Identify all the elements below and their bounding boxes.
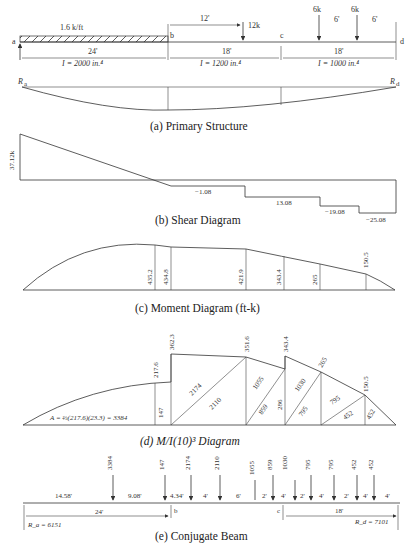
svg-text:6': 6' — [372, 15, 378, 24]
svg-text:24': 24' — [88, 47, 98, 56]
svg-text:I = 1200 in.⁴: I = 1200 in.⁴ — [199, 59, 241, 68]
svg-text:18': 18' — [334, 47, 344, 56]
svg-text:3384: 3384 — [106, 456, 114, 471]
node-b: b — [170, 31, 174, 40]
primary-structure: 1.6 k/ft a b c d 12' 12k 6k 6k 6' 6' 24'… — [12, 5, 404, 133]
svg-text:14.58': 14.58' — [55, 492, 72, 500]
svg-text:795: 795 — [327, 459, 335, 470]
svg-text:4': 4' — [363, 492, 368, 500]
uniform-load-label: 1.6 k/ft — [60, 23, 84, 32]
svg-text:I = 1000 in.⁴: I = 1000 in.⁴ — [317, 59, 359, 68]
svg-text:2': 2' — [262, 492, 267, 500]
svg-text:265: 265 — [311, 274, 319, 285]
svg-text:1030: 1030 — [281, 456, 289, 471]
svg-text:351.6: 351.6 — [243, 336, 251, 352]
mi-diagram: A = ⅔(217.6)(23.3) = 3384 217.6 362.3 35… — [23, 334, 396, 448]
svg-text:859: 859 — [266, 459, 274, 470]
node-c: c — [280, 31, 284, 40]
svg-text:24': 24' — [95, 508, 103, 516]
svg-text:286: 286 — [276, 399, 284, 410]
svg-text:147: 147 — [157, 407, 165, 418]
svg-text:150.5: 150.5 — [362, 252, 370, 268]
caption-c: (c) Moment Diagram (ft-k) — [135, 302, 260, 315]
svg-text:421.9: 421.9 — [237, 269, 245, 285]
node-d: d — [400, 37, 404, 46]
area-formula: A = ⅔(217.6)(23.3) = 3384 — [49, 414, 128, 422]
svg-text:147: 147 — [158, 459, 166, 470]
node-a: a — [12, 37, 16, 46]
svg-text:452: 452 — [367, 459, 375, 470]
svg-text:2110: 2110 — [208, 396, 224, 412]
svg-text:452: 452 — [350, 459, 358, 470]
svg-text:2174: 2174 — [188, 382, 204, 398]
svg-text:265: 265 — [317, 355, 329, 369]
svg-text:2174: 2174 — [184, 456, 192, 471]
uniform-load-hatch — [20, 36, 168, 42]
svg-text:150.5: 150.5 — [362, 376, 370, 392]
svg-text:343.4: 343.4 — [282, 336, 290, 352]
svg-text:4.34': 4.34' — [170, 492, 184, 500]
svg-text:6k: 6k — [351, 5, 359, 14]
caption-e: (e) Conjugate Beam — [155, 530, 248, 543]
svg-text:2110: 2110 — [213, 456, 221, 470]
deflected-shape — [22, 87, 396, 110]
svg-text:2': 2' — [300, 492, 305, 500]
svg-text:R: R — [389, 77, 395, 86]
svg-text:4': 4' — [203, 492, 208, 500]
svg-text:217.6: 217.6 — [152, 362, 160, 378]
svg-text:d: d — [396, 80, 400, 88]
svg-text:1055: 1055 — [251, 375, 266, 391]
svg-text:795: 795 — [329, 394, 343, 407]
reaction-d: R_d = 7101 — [354, 518, 389, 526]
svg-text:434.8: 434.8 — [162, 269, 170, 285]
svg-text:12': 12' — [200, 14, 210, 23]
svg-text:343.4: 343.4 — [275, 269, 283, 285]
svg-text:795: 795 — [304, 459, 312, 470]
svg-text:795: 795 — [297, 405, 310, 419]
conjugate-beam: 3384 147 2174 2110 1055 859 1030 795 795… — [23, 456, 400, 544]
svg-text:435.2: 435.2 — [146, 269, 154, 285]
svg-text:4': 4' — [385, 492, 390, 500]
svg-text:12k: 12k — [248, 21, 260, 30]
svg-text:362.3: 362.3 — [168, 334, 176, 350]
svg-text:R: R — [17, 77, 23, 86]
svg-text:4': 4' — [281, 492, 286, 500]
svg-text:c: c — [277, 507, 280, 515]
caption-a: (a) Primary Structure — [150, 120, 248, 133]
svg-text:18': 18' — [222, 47, 232, 56]
reaction-a: R_a = 6151 — [27, 521, 62, 529]
svg-text:1030: 1030 — [293, 377, 308, 393]
svg-text:6': 6' — [334, 15, 340, 24]
svg-text:−1.08: −1.08 — [195, 188, 212, 196]
svg-text:2': 2' — [344, 492, 349, 500]
svg-text:6': 6' — [236, 492, 241, 500]
svg-text:−19.08: −19.08 — [325, 208, 345, 216]
svg-text:18': 18' — [335, 507, 343, 515]
svg-text:b: b — [174, 507, 178, 515]
svg-text:37.12k: 37.12k — [8, 150, 16, 170]
shear-diagram: 37.12k −1.08 13.08 −19.08 −25.08 (b) She… — [8, 134, 396, 227]
svg-text:4': 4' — [319, 492, 324, 500]
svg-text:9.08': 9.08' — [128, 492, 142, 500]
caption-d: (d) M/I(10)³ Diagram — [140, 435, 240, 448]
svg-text:−25.08: −25.08 — [366, 216, 386, 224]
caption-b: (b) Shear Diagram — [155, 214, 241, 227]
svg-text:13.08: 13.08 — [276, 199, 292, 207]
svg-text:1055: 1055 — [248, 461, 256, 476]
svg-text:6k: 6k — [313, 5, 321, 14]
svg-text:452: 452 — [365, 407, 377, 421]
svg-text:I = 2000 in.⁴: I = 2000 in.⁴ — [61, 59, 103, 68]
svg-text:452: 452 — [342, 409, 356, 422]
moment-diagram: 435.2 434.8 421.9 343.4 265 150.5 (c) Mo… — [23, 244, 395, 315]
beam-analysis-figure: 1.6 k/ft a b c d 12' 12k 6k 6k 6' 6' 24'… — [0, 0, 412, 547]
svg-text:859: 859 — [257, 403, 270, 417]
